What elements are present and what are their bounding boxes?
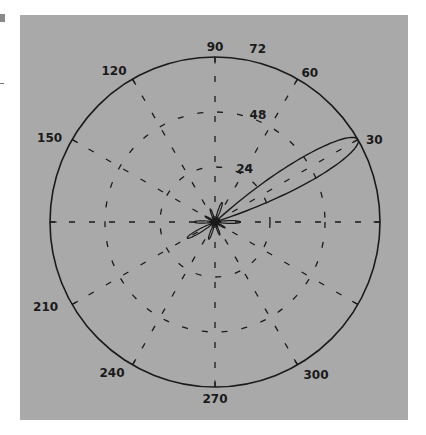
polar-plot: 306090120150210240270300 244872 [0, 0, 426, 435]
angle-tick [72, 140, 78, 143]
angle-label: 150 [37, 131, 62, 145]
angle-tick [352, 301, 358, 304]
radial-label: 72 [249, 42, 266, 56]
grid-spoke [215, 222, 298, 365]
angle-tick [133, 359, 136, 365]
angle-label: 120 [101, 64, 126, 78]
angle-tick [352, 140, 358, 143]
angle-label: 90 [207, 40, 224, 54]
angle-tick [294, 79, 297, 85]
grid-spoke [72, 140, 215, 223]
angle-label: 270 [202, 392, 227, 406]
angle-label: 60 [302, 66, 319, 80]
angle-label: 240 [99, 366, 124, 380]
pattern-series [187, 137, 358, 239]
grid-spoke [133, 79, 216, 222]
angle-label: 300 [304, 368, 329, 382]
radial-label: 48 [250, 108, 267, 122]
pattern-core [211, 218, 219, 226]
angle-label: 30 [366, 133, 383, 147]
grid-spoke [133, 222, 216, 365]
grid-spoke [215, 140, 358, 223]
grid-spoke [215, 79, 298, 222]
angle-tick [294, 359, 297, 365]
angle-label: 210 [33, 300, 58, 314]
grid-spoke [215, 222, 358, 305]
grid-spoke [72, 222, 215, 305]
angle-tick [133, 79, 136, 85]
angle-tick [72, 301, 78, 304]
radial-label: 24 [236, 162, 253, 176]
